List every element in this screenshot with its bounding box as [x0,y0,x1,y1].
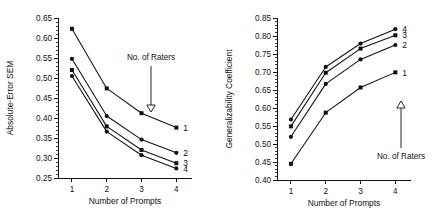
series-line [72,29,176,128]
y-tick-label: 0.50 [255,140,271,149]
axis-lines [58,18,192,178]
data-point [393,70,397,74]
y-axis-title: Absolute-Error SEM [5,61,15,135]
data-point [174,151,178,155]
series-line [72,76,176,168]
x-tick-label: 4 [174,185,179,194]
data-point [289,117,293,121]
y-tick-label: 0.75 [255,50,271,59]
data-point [289,124,293,128]
series-end-label: 4 [402,24,407,34]
series-end-label: 4 [183,164,188,174]
y-tick-label: 0.25 [36,174,52,183]
x-axis-title: Number of Prompts [308,198,381,208]
y-tick-label: 0.40 [255,176,271,185]
data-point [174,161,178,165]
x-tick-label: 4 [393,187,398,196]
y-tick-label: 0.65 [255,86,271,95]
generalizability-coefficient-chart: 0.400.450.500.550.600.650.700.750.800.85… [221,0,443,220]
series-line [291,45,395,137]
y-tick-label: 0.50 [36,74,52,83]
data-point [359,47,363,51]
data-point [105,86,109,90]
data-point [70,68,74,72]
y-tick-label: 0.65 [36,14,52,23]
arrow-head-down-icon [147,105,155,112]
series-end-label: 2 [402,40,407,50]
absolute-error-sem-chart: 0.250.300.350.400.450.500.550.600.651234… [0,0,221,220]
y-tick-label: 0.35 [36,134,52,143]
series-line [291,29,395,119]
data-point [70,74,74,78]
data-point [289,135,293,139]
data-point [70,57,74,61]
y-tick-label: 0.55 [36,54,52,63]
chart-panel-generalizability-coefficient: 0.400.450.500.550.600.650.700.750.800.85… [221,0,443,220]
y-tick-label: 0.45 [255,158,271,167]
x-tick-label: 1 [70,185,75,194]
series-line [291,72,395,163]
y-tick-label: 0.70 [255,68,271,77]
data-point [324,82,328,86]
y-tick-label: 0.55 [255,122,271,131]
data-point [105,130,109,134]
data-point [359,85,363,89]
x-tick-label: 2 [323,187,328,196]
data-point [174,166,178,170]
y-tick-label: 0.45 [36,94,52,103]
data-point [174,126,178,130]
y-axis-title: Generalizability Coefficient [224,49,234,149]
chart-panel-absolute-error-sem: 0.250.300.350.400.450.500.550.600.651234… [0,0,221,220]
data-point [393,27,397,31]
no-of-raters-annotation-label: No. of Raters [377,152,425,161]
series-end-label: 2 [183,148,188,158]
y-tick-label: 0.80 [255,32,271,41]
x-tick-label: 2 [104,185,109,194]
data-point [393,33,397,37]
data-point [139,153,143,157]
no-of-raters-annotation-label: No. of Raters [127,53,175,62]
figure-root: 0.250.300.350.400.450.500.550.600.651234… [0,0,443,220]
y-tick-label: 0.60 [255,104,271,113]
data-point [393,43,397,47]
y-tick-label: 0.30 [36,154,52,163]
x-tick-label: 3 [139,185,144,194]
series-end-label: 1 [183,123,188,133]
data-point [140,148,144,152]
x-axis-title: Number of Prompts [89,196,162,206]
series-end-label: 1 [402,68,407,78]
data-point [358,41,362,45]
data-point [324,111,328,115]
y-tick-label: 0.40 [36,114,52,123]
x-tick-label: 1 [289,187,294,196]
arrow-head-up-icon [397,101,405,108]
data-point [289,162,293,166]
x-tick-label: 3 [358,187,363,196]
data-point [358,57,362,61]
data-point [105,124,109,128]
data-point [140,111,144,115]
y-tick-label: 0.60 [36,34,52,43]
data-point [324,71,328,75]
data-point [324,65,328,69]
data-point [139,138,143,142]
data-point [105,114,109,118]
y-tick-label: 0.85 [255,14,271,23]
data-point [70,27,74,31]
